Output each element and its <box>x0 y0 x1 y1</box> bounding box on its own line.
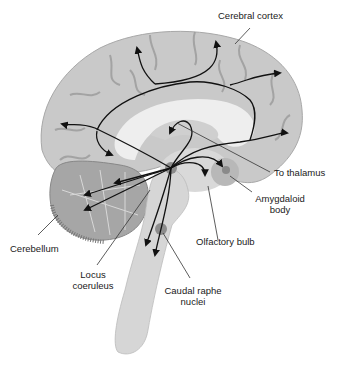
label-cerebellum: Cerebellum <box>10 243 59 254</box>
label-to-thalamus: To thalamus <box>274 167 325 178</box>
cerebellum-shape <box>50 161 148 240</box>
amygdala-dot <box>222 166 230 174</box>
label-cerebral-cortex: Cerebral cortex <box>218 10 283 21</box>
label-amygdaloid-body: Amygdaloid body <box>252 193 308 215</box>
label-olfactory-bulb: Olfactory bulb <box>196 236 255 247</box>
brain-illustration <box>0 0 338 380</box>
brain-diagram: Cerebral cortex To thalamus Amygdaloid b… <box>0 0 338 380</box>
label-locus-coeruleus: Locus coeruleus <box>68 269 118 291</box>
label-caudal-raphe-nuclei: Caudal raphe nuclei <box>160 285 226 307</box>
